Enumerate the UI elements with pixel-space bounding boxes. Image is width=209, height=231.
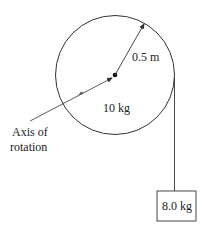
axis-label-line2: rotation bbox=[10, 140, 47, 154]
pulley-diagram: 0.5 m 10 kg Axis of rotation 8.0 kg bbox=[0, 0, 209, 231]
pulley-mass-label: 10 kg bbox=[103, 101, 130, 115]
radius-label: 0.5 m bbox=[132, 50, 160, 64]
axis-label-line1: Axis of bbox=[12, 125, 48, 139]
block-mass-label: 8.0 kg bbox=[162, 199, 192, 213]
